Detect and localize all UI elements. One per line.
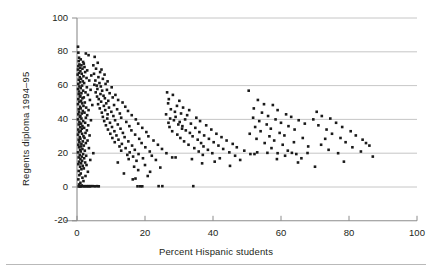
data-point	[83, 157, 86, 160]
data-point	[77, 128, 80, 131]
data-point	[84, 132, 87, 135]
data-point	[78, 90, 81, 93]
y-tick-label: -20	[0, 214, 68, 225]
data-point	[100, 68, 103, 71]
data-point	[210, 128, 213, 131]
data-point	[86, 114, 89, 117]
data-point	[171, 156, 174, 159]
data-point	[222, 148, 225, 151]
data-point	[98, 107, 101, 110]
data-point	[131, 178, 134, 181]
data-point	[317, 124, 320, 127]
data-point	[107, 100, 110, 103]
data-point	[257, 99, 260, 102]
data-point	[149, 170, 152, 173]
data-point	[297, 119, 300, 122]
data-point	[372, 155, 375, 158]
data-point	[138, 138, 141, 141]
data-point	[231, 143, 234, 146]
data-point	[142, 157, 145, 160]
data-point	[122, 132, 125, 135]
data-point	[88, 79, 91, 82]
data-point	[79, 165, 82, 168]
data-point	[324, 138, 327, 141]
data-point	[77, 108, 80, 111]
data-point	[178, 121, 181, 124]
data-point	[287, 125, 290, 128]
data-point	[137, 122, 140, 125]
data-point	[82, 153, 85, 156]
data-point	[80, 143, 83, 146]
y-tick-label: 20	[0, 147, 68, 158]
data-point	[161, 148, 164, 151]
data-point	[141, 127, 144, 130]
data-point	[191, 158, 194, 161]
data-point	[213, 160, 216, 163]
data-point	[83, 137, 86, 140]
data-point	[110, 111, 113, 114]
data-point	[144, 164, 147, 167]
data-point	[84, 149, 87, 152]
data-point	[96, 88, 99, 91]
data-point	[165, 152, 168, 155]
data-point	[145, 131, 148, 134]
data-point	[188, 109, 191, 112]
data-point	[84, 121, 87, 124]
data-point	[77, 151, 80, 154]
data-point	[120, 116, 123, 119]
data-point	[123, 172, 126, 175]
data-point	[127, 158, 130, 161]
data-point	[254, 126, 257, 129]
data-point	[94, 79, 97, 82]
data-point	[97, 98, 100, 101]
data-point	[144, 146, 147, 149]
data-point	[84, 185, 87, 188]
data-point	[81, 84, 84, 87]
data-point	[265, 123, 268, 126]
data-point	[96, 61, 99, 64]
data-point	[327, 149, 330, 152]
data-point	[220, 136, 223, 139]
data-point	[196, 138, 199, 141]
data-point	[151, 154, 154, 157]
data-point	[272, 104, 275, 107]
data-point	[287, 149, 290, 152]
data-point	[314, 165, 317, 168]
data-point	[80, 92, 83, 95]
data-point	[341, 126, 344, 129]
data-point	[136, 185, 139, 188]
data-point	[95, 67, 98, 70]
data-point	[86, 86, 89, 89]
data-point	[77, 60, 80, 63]
data-point	[169, 117, 172, 120]
data-point	[113, 141, 116, 144]
data-point	[215, 132, 218, 135]
data-point	[193, 147, 196, 150]
data-point	[258, 120, 261, 123]
data-point	[337, 152, 340, 155]
data-point	[104, 97, 107, 100]
data-point	[83, 62, 86, 65]
data-point	[297, 161, 300, 164]
data-point	[261, 111, 264, 114]
data-point	[111, 126, 114, 129]
data-point	[190, 122, 193, 125]
data-point	[183, 140, 186, 143]
data-point	[256, 151, 259, 154]
data-point	[87, 170, 90, 173]
data-point	[133, 165, 136, 168]
data-point	[81, 67, 84, 70]
data-point	[108, 106, 111, 109]
data-point	[79, 87, 82, 90]
data-point	[113, 130, 116, 133]
data-point	[116, 108, 119, 111]
data-point	[135, 160, 138, 163]
data-point	[127, 140, 130, 143]
data-point	[295, 153, 298, 156]
data-point	[152, 139, 155, 142]
data-point	[105, 124, 108, 127]
data-point	[181, 125, 184, 128]
data-point	[307, 145, 310, 148]
data-point	[79, 185, 82, 188]
data-point	[85, 164, 88, 167]
